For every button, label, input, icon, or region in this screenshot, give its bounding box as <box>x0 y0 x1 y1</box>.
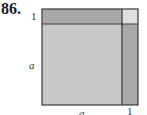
right-strip-region <box>122 24 138 105</box>
big-square-region <box>42 24 122 105</box>
label-left-middle: a <box>29 60 35 71</box>
label-bottom-right: 1 <box>127 106 133 115</box>
area-model-diagram <box>0 0 147 115</box>
label-left-top: 1 <box>31 11 37 22</box>
label-bottom-middle: a <box>79 108 85 115</box>
top-strip-region <box>42 9 122 24</box>
corner-square-region <box>122 9 138 24</box>
